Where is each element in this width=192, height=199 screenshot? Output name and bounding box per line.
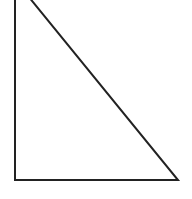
right-triangle-shape [15, 0, 178, 180]
diagram-canvas [0, 0, 192, 199]
triangle-figure [0, 0, 192, 199]
